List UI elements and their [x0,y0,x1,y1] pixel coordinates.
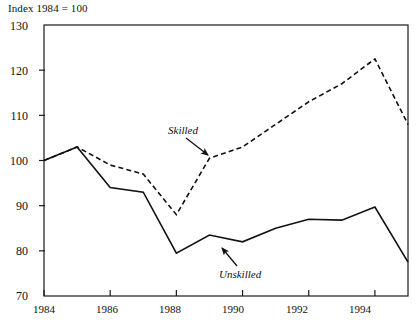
chart-tick-marks [39,70,375,296]
series-line-skilled [44,59,408,215]
series-label-unskilled: Unskilled [219,268,261,280]
annotation-arrow-unskilled [222,248,237,266]
x-tick-label: 1984 [24,303,64,315]
y-tick-label: 70 [2,289,28,304]
x-tick-label: 1986 [87,303,127,315]
series-label-skilled: Skilled [168,124,198,136]
y-tick-label: 90 [2,199,28,214]
chart-plot-area [0,0,418,328]
x-tick-label: 1992 [277,303,317,315]
chart-figure: Index 1984 = 100 130 120 110 100 90 80 7… [0,0,418,328]
series-line-unskilled [44,147,408,262]
y-tick-label: 120 [2,64,28,79]
y-tick-label: 130 [2,19,28,34]
chart-annotation-arrows [186,138,237,266]
x-tick-label: 1994 [340,303,380,315]
y-tick-label: 110 [2,109,28,124]
annotation-arrow-skilled [186,138,208,155]
x-tick-label: 1990 [213,303,253,315]
y-tick-label: 100 [2,154,28,169]
chart-axes [44,25,408,296]
x-tick-label: 1988 [150,303,190,315]
chart-axis-title: Index 1984 = 100 [8,2,88,14]
y-tick-label: 80 [2,244,28,259]
chart-series-group [44,59,408,262]
